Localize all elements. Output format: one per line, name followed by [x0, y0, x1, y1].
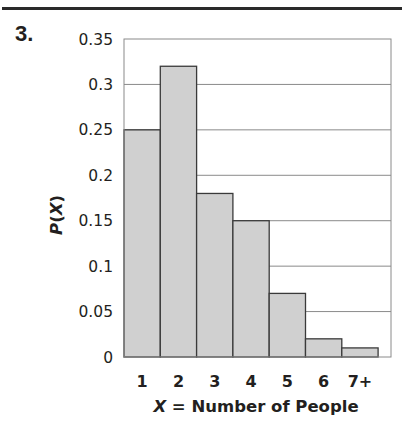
bar-1 [124, 130, 160, 357]
y-tick-label: 0.3 [88, 76, 113, 94]
x-tick-label: 2 [173, 372, 184, 391]
x-tick-label: 5 [282, 372, 293, 391]
y-tick-label: 0.05 [78, 303, 113, 321]
bar-3 [197, 193, 233, 357]
probability-histogram: 00.050.10.150.20.250.30.35 1234567+ P(X)… [0, 0, 409, 430]
bar-5 [269, 293, 305, 357]
x-tick-label: 1 [137, 372, 148, 391]
x-tick-label: 4 [245, 372, 256, 391]
x-axis-label: X = Number of People [152, 397, 358, 416]
x-tick-label: 3 [209, 372, 220, 391]
bar-7+ [342, 348, 378, 357]
bar-6 [306, 339, 342, 357]
x-tick-label: 7+ [348, 372, 373, 391]
y-tick-label: 0 [103, 349, 113, 367]
x-axis-ticks: 1234567+ [137, 372, 373, 391]
y-axis-label: P(X) [47, 195, 66, 235]
bars [124, 66, 378, 357]
y-tick-label: 0.35 [78, 31, 113, 49]
y-tick-label: 0.25 [78, 121, 113, 139]
x-tick-label: 6 [318, 372, 329, 391]
y-tick-label: 0.15 [78, 212, 113, 230]
y-tick-label: 0.1 [88, 258, 113, 276]
y-axis-ticks: 00.050.10.150.20.250.30.35 [78, 31, 113, 367]
y-tick-label: 0.2 [88, 167, 113, 185]
bar-2 [160, 66, 196, 357]
bar-4 [233, 221, 269, 357]
